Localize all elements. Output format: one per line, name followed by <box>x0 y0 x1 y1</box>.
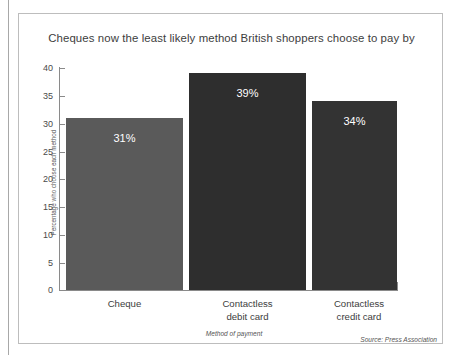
x-label-contactless-debit-card-line1: Contactless <box>189 297 306 310</box>
y-tick-15 <box>59 207 65 208</box>
bar-value-contactless-debit-card: 39% <box>189 87 306 99</box>
y-tick-label-25: 25 <box>23 147 53 157</box>
bar-value-cheque: 31% <box>66 132 183 144</box>
y-tick-label-20: 20 <box>23 174 53 184</box>
x-axis-endcap <box>397 282 398 291</box>
y-tick-20 <box>59 179 65 180</box>
y-tick-35 <box>59 96 65 97</box>
y-tick-label-5: 5 <box>23 258 53 268</box>
bar-value-contactless-credit-card: 34% <box>312 115 397 127</box>
x-label-contactless-debit-card: Contactless debit card <box>189 297 306 323</box>
x-axis-line <box>59 290 398 291</box>
y-tick-label-40: 40 <box>23 63 53 73</box>
y-tick-25 <box>59 152 65 153</box>
y-tick-5 <box>59 263 65 264</box>
x-label-cheque: Cheque <box>66 297 183 310</box>
bar-contactless-credit-card: 34% <box>312 101 397 290</box>
y-tick-label-35: 35 <box>23 91 53 101</box>
y-tick-label-30: 30 <box>23 119 53 129</box>
y-tick-40 <box>59 68 65 69</box>
x-label-contactless-debit-card-line2: debit card <box>189 310 306 323</box>
page-edge-rule <box>8 0 9 355</box>
x-label-contactless-credit-card-line1: Contactless <box>304 297 414 310</box>
x-label-cheque-line1: Cheque <box>66 297 183 310</box>
y-tick-label-0: 0 <box>23 285 53 295</box>
y-tick-30 <box>59 124 65 125</box>
x-label-contactless-credit-card: Contactless credit card <box>304 297 414 323</box>
plot-area: 40 35 30 25 20 15 10 5 0 Percentage who … <box>19 14 444 345</box>
y-tick-label-15: 15 <box>23 202 53 212</box>
bar-contactless-debit-card: 39% <box>189 73 306 290</box>
y-axis-title: Percentage who choose each method <box>50 103 57 263</box>
x-axis-title: Method of payment <box>164 330 304 337</box>
source-note: Source: Press Association <box>360 336 437 343</box>
y-tick-label-10: 10 <box>23 230 53 240</box>
y-tick-10 <box>59 235 65 236</box>
bar-cheque: 31% <box>66 118 183 290</box>
x-label-contactless-credit-card-line2: credit card <box>304 310 414 323</box>
chart-figure: Cheques now the least likely method Brit… <box>18 13 443 344</box>
